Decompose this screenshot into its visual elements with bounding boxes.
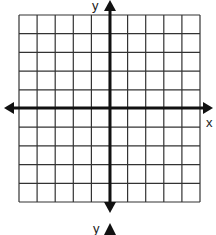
x-axis-left-arrow-icon <box>4 102 14 114</box>
y-axis-up-arrow-icon <box>104 0 116 11</box>
coordinate-grid <box>0 0 216 235</box>
x-axis-label: x <box>206 116 213 129</box>
y-axis-down-arrow-icon <box>104 202 116 213</box>
bottom-up-arrow-icon <box>104 223 116 235</box>
y-axis-label-bottom: y <box>93 222 100 235</box>
x-axis-right-arrow-icon <box>203 102 213 114</box>
y-axis-label-top: y <box>92 0 99 12</box>
